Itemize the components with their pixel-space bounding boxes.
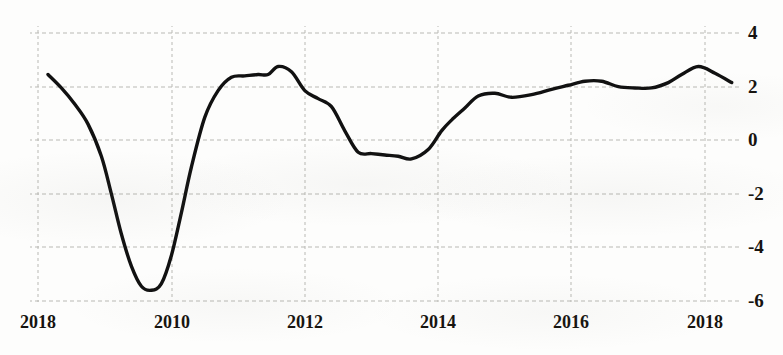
vertical-gridlines: [38, 26, 706, 302]
x-tick-label: 2018: [687, 313, 723, 331]
x-tick-label: 2012: [287, 313, 323, 331]
y-tick-label: 2: [748, 77, 758, 96]
y-tick-label: -2: [748, 184, 764, 203]
x-tick-label: 2010: [154, 313, 190, 331]
y-tick-label: -6: [748, 291, 764, 310]
y-tick-label: 0: [748, 130, 758, 149]
line-chart: [0, 0, 783, 355]
y-tick-label: -4: [748, 237, 764, 256]
x-tick-label: 2016: [553, 313, 589, 331]
chart-page: 4 2 0 -2 -4 -6 2018 2010 2012 2014 2016 …: [0, 0, 783, 355]
horizontal-gridlines: [30, 33, 740, 302]
x-tick-label: 2014: [420, 313, 456, 331]
x-tick-label: 2018: [20, 313, 56, 331]
y-tick-label: 4: [748, 23, 758, 42]
data-series-line: [48, 66, 732, 290]
